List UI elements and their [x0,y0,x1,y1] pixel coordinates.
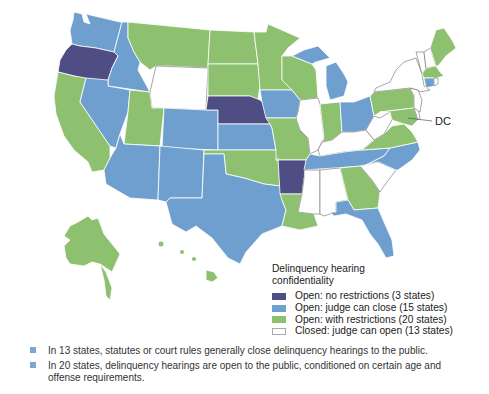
state-sd [208,64,260,100]
legend-label: Open: no restrictions (3 states) [295,290,434,302]
state-ct [424,78,434,88]
state-ks [218,124,276,150]
state-nm [158,146,204,202]
legend-title-line1: Delinquency hearing [272,263,453,275]
state-hi [206,270,218,282]
state-hi-islands [180,250,184,254]
state-ia [260,90,300,118]
legend-item-open-judge-can-close: Open: judge can close (15 states) [272,302,453,314]
legend-swatch [272,305,286,312]
legend: Delinquency hearing confidentiality Open… [272,263,453,337]
square-bullet-icon [30,362,36,368]
state-mi [326,62,348,100]
legend-label: Open: judge can close (15 states) [295,302,447,314]
state-hi-islands [159,242,164,247]
legend-item-open-with-restrictions: Open: with restrictions (20 states) [272,314,453,326]
state-mt [128,22,210,70]
state-ri [434,78,438,86]
legend-label: Open: with restrictions (20 states) [295,314,447,326]
state-nd [208,30,258,64]
state-wy [150,66,208,110]
legend-title-line2: confidentiality [272,275,453,287]
state-co [162,108,218,150]
note-text: In 13 states, statutes or court rules ge… [48,345,468,357]
note-text: In 20 states, delinquency hearings are o… [48,360,468,384]
legend-item-open-no-restrictions: Open: no restrictions (3 states) [272,291,453,303]
notes: In 13 states, statutes or court rules ge… [30,345,468,387]
state-me [430,28,456,66]
legend-label: Closed: judge can open (13 states) [295,325,453,337]
legend-swatch [272,316,286,323]
legend-swatch [272,328,286,335]
legend-swatch [272,293,286,300]
state-ak [64,216,120,272]
square-bullet-icon [30,347,36,353]
note-item: In 20 states, delinquency hearings are o… [30,360,468,384]
dc-label: DC [435,115,451,127]
legend-item-closed-judge-can-open: Closed: judge can open (13 states) [272,326,453,338]
state-hi-islands [192,257,196,261]
legend-title: Delinquency hearing confidentiality [272,263,453,288]
note-item: In 13 states, statutes or court rules ge… [30,345,468,357]
